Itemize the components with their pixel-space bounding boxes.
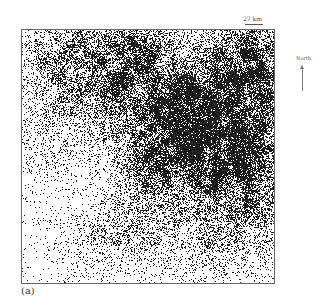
- north-arrow-icon: [300, 65, 306, 91]
- panel-label: (a): [21, 285, 35, 296]
- arrow-shaft: [302, 67, 303, 91]
- scale-bar: [245, 24, 263, 25]
- classification-map: [21, 29, 275, 284]
- map-canvas: [22, 30, 274, 283]
- scale-label: 27 km: [243, 15, 262, 22]
- north-label: North: [296, 55, 311, 61]
